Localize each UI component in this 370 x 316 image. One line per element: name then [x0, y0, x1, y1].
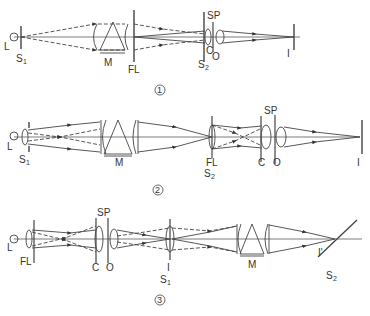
svg-text:S: S — [16, 53, 23, 64]
svg-text:L: L — [7, 141, 13, 152]
svg-text:2: 2 — [211, 173, 215, 180]
svg-text:FL: FL — [128, 64, 140, 75]
svg-text:I: I — [357, 157, 360, 168]
svg-text:SP: SP — [97, 207, 111, 218]
svg-text:2: 2 — [205, 64, 209, 71]
svg-text:1: 1 — [167, 279, 171, 286]
svg-text:M: M — [104, 57, 112, 68]
svg-text:L: L — [7, 242, 13, 253]
svg-text:I: I — [287, 48, 290, 59]
svg-text:1: 1 — [23, 58, 27, 65]
svg-text:S: S — [204, 168, 211, 179]
svg-text:S: S — [160, 274, 167, 285]
diagram-number-2: 2 — [155, 185, 160, 195]
diagram-number-1: 1 — [157, 85, 162, 95]
svg-text:I: I — [167, 262, 170, 273]
diagram-2 — [10, 115, 362, 164]
svg-text:S: S — [198, 59, 205, 70]
svg-text:2: 2 — [333, 275, 337, 282]
svg-text:O: O — [106, 262, 114, 273]
svg-text:S: S — [19, 154, 26, 165]
svg-text:C: C — [92, 262, 99, 273]
diagram-1 — [10, 10, 300, 62]
svg-text:S: S — [326, 270, 333, 281]
svg-text:I': I' — [318, 247, 323, 258]
diagram-3 — [10, 218, 362, 263]
svg-text:M: M — [115, 157, 123, 168]
svg-text:SP: SP — [264, 105, 278, 116]
diagram-1-labels: L S 1 M FL SP S 2 C O I 1 — [4, 10, 290, 95]
svg-text:M: M — [248, 259, 256, 270]
diagram-2-labels: L S 1 M FL S 2 SP C O I 2 — [7, 105, 360, 195]
diagram-number-3: 3 — [157, 295, 162, 305]
svg-text:FL: FL — [206, 157, 218, 168]
diagram-3-labels: L FL SP C O I S 1 M I' S 2 3 — [7, 207, 337, 305]
svg-text:C: C — [258, 157, 265, 168]
optical-diagrams: L S 1 M FL SP S 2 C O I 1 — [0, 0, 370, 316]
svg-text:SP: SP — [207, 10, 221, 21]
svg-text:1: 1 — [26, 159, 30, 166]
svg-text:O: O — [212, 51, 220, 62]
svg-text:O: O — [273, 157, 281, 168]
svg-text:L: L — [4, 41, 10, 52]
svg-text:FL: FL — [20, 256, 32, 267]
lamp-icon — [10, 132, 18, 140]
